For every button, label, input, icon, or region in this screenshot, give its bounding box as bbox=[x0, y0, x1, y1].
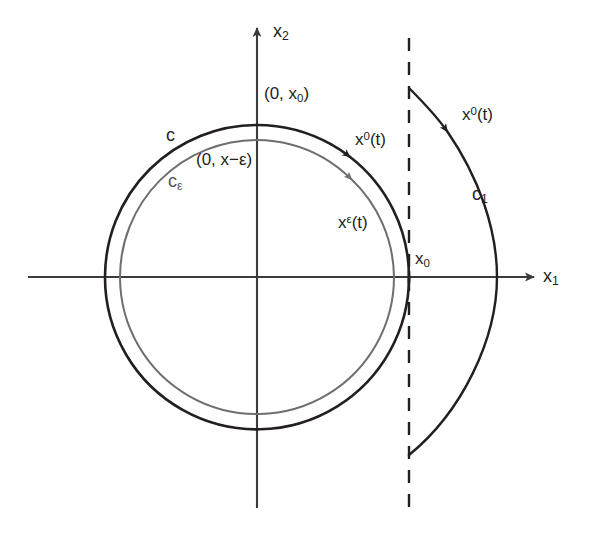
curve-label-c: c bbox=[166, 126, 175, 144]
trajectory-label-right: x0(t) bbox=[462, 106, 493, 123]
x2-axis-label: x2 bbox=[273, 22, 289, 42]
x1-axis-label: x1 bbox=[543, 267, 559, 287]
diagram-svg bbox=[0, 0, 599, 540]
curve-label-c1: c1 bbox=[472, 185, 488, 205]
trajectory-label-inner: xε(t) bbox=[338, 214, 368, 231]
trajectory-label-outer: x0(t) bbox=[355, 131, 386, 148]
outer-circle-arrow-segment bbox=[331, 144, 350, 156]
right-arc-c1-upper bbox=[409, 88, 447, 131]
point-label-0-x-minus-eps: (0, x−ε) bbox=[196, 151, 252, 168]
diagram-canvas: x2 x1 (0, x0) (0, x−ε) c cε c1 x0(t) xε(… bbox=[0, 0, 599, 540]
inner-circle-arrow-segment bbox=[323, 157, 352, 179]
point-label-0-x0: (0, x0) bbox=[264, 85, 309, 104]
curve-label-c-epsilon: cε bbox=[168, 172, 182, 192]
right-arc-c1-lower bbox=[409, 131, 497, 455]
x0-point-label: x0 bbox=[415, 250, 430, 269]
